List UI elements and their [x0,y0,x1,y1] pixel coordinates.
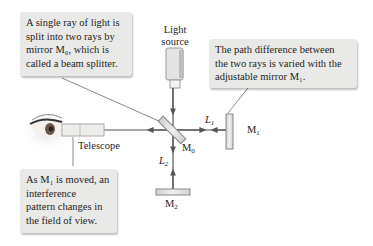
telescope-label: Telescope [78,140,120,152]
callout-line: The path difference between [215,43,351,57]
light-source-label: Light source [158,24,192,48]
light-source-icon [166,48,184,88]
callout-line: split into two rays by [26,30,126,44]
callout-interference: As M₁ is moved, an interference pattern … [20,169,117,233]
mirror-m2 [156,189,190,195]
m0-sub: 0 [191,147,195,155]
label-line: Light [158,24,192,36]
label-line: source [158,36,192,48]
m2-label: M2 [165,198,178,213]
l1-sub: 1 [211,119,215,127]
callout-path-difference: The path difference between the two rays… [209,39,357,88]
callout-line: interference [26,187,111,201]
callout-line: the field of view. [26,214,111,228]
l1-label: L1 [205,114,214,129]
m2-sub: 2 [174,203,178,211]
m0-label: M0 [182,142,195,157]
l2-sub: 2 [165,160,169,168]
callout-line: the two rays is varied with the [215,57,351,71]
m0-text: M [182,142,191,153]
m1-sub: 1 [256,129,260,137]
leader-lines [62,78,248,166]
callout-line: pattern changes in [26,200,111,214]
m1-text: M [247,124,256,135]
m1-label: M1 [247,124,260,139]
callout-line: adjustable mirror M₁. [215,70,351,84]
callout-line: A single ray of light is [26,16,126,30]
mirror-m1 [226,114,233,149]
callout-line: called a beam splitter. [26,57,126,71]
l2-label: L2 [159,155,168,170]
callout-line: As M₁ is moved, an [26,173,111,187]
callout-beam-splitter: A single ray of light is split into two … [20,12,132,76]
m2-text: M [165,198,174,209]
callout-line: mirror M₀, which is [26,43,126,57]
telescope-icon [62,124,104,136]
